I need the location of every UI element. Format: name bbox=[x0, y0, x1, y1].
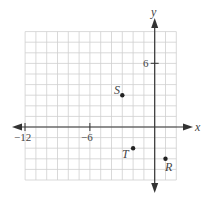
coordinate-plane: x y −12 −6 6 S T R bbox=[0, 0, 206, 199]
point-r-label: R bbox=[164, 160, 173, 174]
y-axis-down-arrow-icon bbox=[151, 183, 158, 193]
point-t bbox=[131, 146, 135, 150]
y-axis-label: y bbox=[150, 5, 157, 19]
x-tick-label-neg6: −6 bbox=[81, 131, 93, 143]
point-s bbox=[120, 93, 124, 97]
point-s-label: S bbox=[114, 83, 120, 97]
grid bbox=[25, 32, 176, 180]
y-tick-label-6: 6 bbox=[143, 57, 149, 69]
x-axis-label: x bbox=[194, 120, 201, 134]
y-axis-up-arrow-icon bbox=[151, 18, 158, 28]
x-tick-label-neg12: −12 bbox=[14, 131, 31, 143]
x-axis-right-arrow-icon bbox=[183, 124, 193, 131]
x-axis-left-arrow-icon bbox=[12, 124, 22, 131]
